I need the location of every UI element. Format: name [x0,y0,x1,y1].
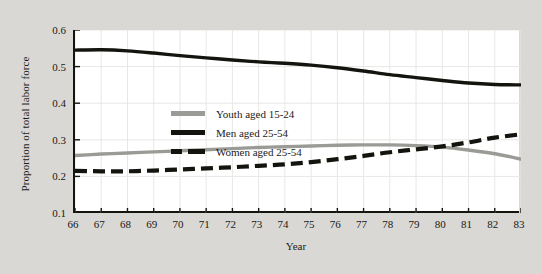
chart-legend: Youth aged 15-24 Men aged 25-54 Women ag… [171,104,302,161]
y-axis-title: Proportion of total labor force [19,29,31,219]
y-tick-label: 0.5 [32,62,66,72]
x-tick-label: 82 [480,219,506,230]
y-tick-label: 0.6 [32,25,66,35]
legend-label-women: Women aged 25-54 [216,146,302,158]
x-tick-label: 67 [86,219,112,230]
y-tick-label: 0.2 [32,171,66,181]
legend-swatch-women-icon [171,146,205,157]
y-tick-label: 0.1 [32,208,66,218]
x-tick-label: 79 [401,219,427,230]
legend-item-youth: Youth aged 15-24 [171,104,302,123]
x-tick-label: 70 [165,219,191,230]
x-tick-label: 78 [375,219,401,230]
y-tick-label: 0.4 [32,98,66,108]
x-tick-label: 73 [244,219,270,230]
x-tick-label: 71 [191,219,217,230]
legend-item-men: Men aged 25-54 [171,123,302,142]
x-tick-label: 69 [139,219,165,230]
y-tick-label: 0.3 [32,135,66,145]
x-tick-label: 74 [270,219,296,230]
x-tick-label: 72 [217,219,243,230]
legend-swatch-men-icon [171,127,205,138]
legend-label-youth: Youth aged 15-24 [216,108,294,120]
x-tick-label: 83 [506,219,532,230]
chart-figure: Proportion of total labor force 0.6 0.5 … [0,0,542,274]
plot-area: Youth aged 15-24 Men aged 25-54 Women ag… [73,30,519,213]
x-tick-label: 80 [427,219,453,230]
x-tick-label: 66 [60,219,86,230]
legend-swatch-youth-icon [171,108,205,119]
x-axis-title: Year [73,240,519,252]
legend-item-women: Women aged 25-54 [171,142,302,161]
x-tick-label: 68 [112,219,138,230]
legend-label-men: Men aged 25-54 [216,127,288,139]
x-tick-label: 76 [322,219,348,230]
x-tick-label: 77 [349,219,375,230]
x-tick-label: 81 [454,219,480,230]
x-tick-label: 75 [296,219,322,230]
